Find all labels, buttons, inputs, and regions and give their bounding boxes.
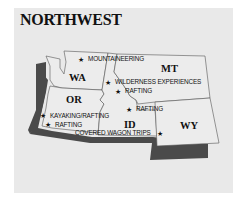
svg-text:RAFTING: RAFTING	[55, 121, 82, 128]
state-label-wa: WA	[69, 72, 86, 83]
svg-text:MOUNTAINEERING: MOUNTAINEERING	[88, 55, 144, 62]
northwest-map: WA OR MT ID WY ★ MOUNTAINEERING ★ WILDER…	[0, 0, 237, 200]
star-icon: ★	[126, 106, 132, 114]
svg-text:RAFTING: RAFTING	[125, 87, 152, 94]
star-icon: ★	[78, 56, 84, 64]
star-icon: ★	[157, 130, 163, 138]
state-label-mt: MT	[161, 63, 178, 74]
star-icon: ★	[115, 88, 121, 96]
state-label-or: OR	[66, 94, 82, 105]
activity-kayaking-rafting: ★ KAYAKING/RAFTING	[40, 112, 109, 120]
svg-text:COVERED WAGON TRIPS: COVERED WAGON TRIPS	[75, 129, 151, 136]
svg-text:WILDERNESS EXPERIENCES: WILDERNESS EXPERIENCES	[115, 78, 201, 85]
activity-rafting-or: ★ RAFTING	[45, 121, 82, 129]
star-icon: ★	[105, 79, 111, 87]
svg-text:KAYAKING/RAFTING: KAYAKING/RAFTING	[50, 112, 109, 119]
star-icon: ★	[45, 121, 51, 129]
state-label-wy: WY	[180, 120, 199, 131]
star-icon: ★	[40, 112, 46, 120]
svg-text:RAFTING: RAFTING	[136, 105, 163, 112]
